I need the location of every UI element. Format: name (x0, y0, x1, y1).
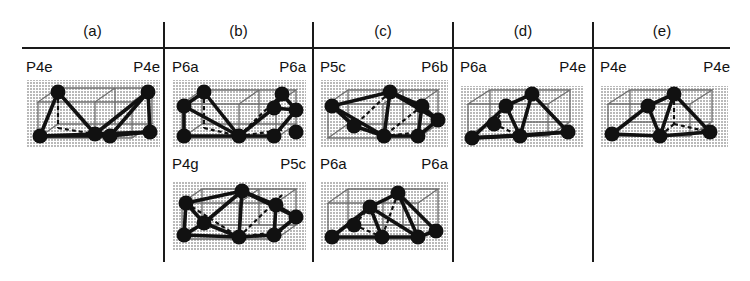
cell-b-1-labels: P6a P6a (170, 58, 308, 76)
diagram-cell-c-1: P5c P6b (318, 58, 450, 150)
diagram-cell-e-1: P4e P4e (598, 58, 732, 150)
polyhedron-diagram-a-1 (24, 76, 162, 150)
column-letter-e: (e) (594, 22, 730, 39)
column-letter-b-text: (b) (229, 22, 247, 39)
column-divider-de (592, 22, 594, 262)
column-letter-b: (b) (165, 22, 312, 39)
diagram-cell-c-2: P6a P6a (318, 155, 450, 255)
cell-c-2-labels: P6a P6a (318, 155, 450, 173)
site-label-left: P6a (320, 155, 347, 172)
diagram-cell-b-2: P4g P5c (170, 155, 308, 255)
column-divider-ab (163, 22, 165, 262)
site-label-right: P4e (133, 58, 160, 75)
site-label-right: P6a (279, 58, 306, 75)
site-label-right: P4e (559, 58, 586, 75)
column-letter-c-text: (c) (374, 22, 392, 39)
cell-b-2-labels: P4g P5c (170, 155, 308, 173)
column-divider-cd (452, 22, 454, 262)
polyhedron-diagram-b-1 (170, 76, 308, 150)
polyhedron-diagram-d-1 (458, 76, 588, 150)
polyhedron-diagram-e-1 (598, 76, 732, 150)
column-divider-bc (312, 22, 314, 262)
column-letter-a: (a) (22, 22, 163, 39)
column-letter-d: (d) (454, 22, 592, 39)
diagram-cell-b-1: P6a P6a (170, 58, 308, 150)
site-label-right: P5c (280, 155, 306, 172)
header-horizontal-rule (22, 47, 730, 49)
polyhedron-diagram-b-2 (170, 173, 308, 253)
site-label-right: P4e (703, 58, 730, 75)
site-label-left: P5c (320, 58, 346, 75)
column-letter-a-text: (a) (83, 22, 101, 39)
site-label-left: P4g (172, 155, 199, 172)
site-label-left: P4e (600, 58, 627, 75)
column-letter-d-text: (d) (514, 22, 532, 39)
cell-c-1-labels: P5c P6b (318, 58, 450, 76)
site-label-right: P6a (421, 155, 448, 172)
polyhedron-diagram-c-1 (318, 76, 450, 150)
cell-a-1-labels: P4e P4e (24, 58, 162, 76)
figure-panel-grid: (a) (b) (c) (d) (e) P4e P4e (0, 0, 750, 281)
column-letter-e-text: (e) (653, 22, 671, 39)
column-letter-c: (c) (314, 22, 452, 39)
cell-e-1-labels: P4e P4e (598, 58, 732, 76)
diagram-cell-a-1: P4e P4e (24, 58, 162, 150)
cell-d-1-labels: P6a P4e (458, 58, 588, 76)
diagram-cell-d-1: P6a P4e (458, 58, 588, 150)
site-label-left: P6a (172, 58, 199, 75)
site-label-left: P6a (460, 58, 487, 75)
site-label-left: P4e (26, 58, 53, 75)
polyhedron-diagram-c-2 (318, 173, 450, 253)
site-label-right: P6b (421, 58, 448, 75)
